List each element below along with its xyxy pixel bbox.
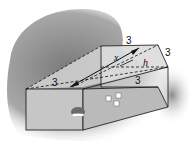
die — [114, 101, 119, 106]
label-right-slant: 3 — [165, 47, 171, 58]
label-left-top-edge: 3 — [52, 77, 58, 88]
label-inner-bottom: 3 — [135, 75, 141, 86]
prism-diagram: 3 3 3 3 x h — [0, 0, 189, 143]
die — [116, 93, 121, 98]
label-h: h — [143, 57, 148, 68]
label-top-edge: 3 — [126, 35, 132, 46]
ball-stripe — [72, 113, 84, 116]
die — [106, 96, 111, 101]
label-x: x — [113, 52, 119, 63]
